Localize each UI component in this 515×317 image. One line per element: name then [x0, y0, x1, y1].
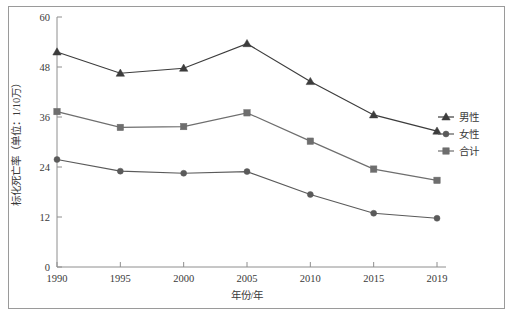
data-point	[307, 192, 313, 198]
data-point	[371, 210, 377, 216]
x-tick-label: 2010	[300, 273, 321, 284]
data-point	[434, 177, 440, 183]
x-tick-label: 1990	[47, 273, 68, 284]
axis-lines	[57, 17, 446, 267]
x-tick-label: 2019	[427, 273, 448, 284]
x-tick-label: 1995	[110, 273, 131, 284]
data-point	[243, 39, 251, 46]
data-point	[53, 48, 61, 55]
data-point	[180, 123, 186, 129]
legend-label: 女性	[459, 128, 479, 140]
data-point	[181, 170, 187, 176]
y-tick-label: 60	[40, 12, 51, 23]
data-point	[434, 215, 440, 221]
legend-marker-square-icon	[443, 148, 449, 154]
y-tick-label: 0	[45, 262, 50, 273]
series-line	[57, 44, 437, 132]
data-point	[244, 110, 250, 116]
y-tick-label: 48	[40, 62, 51, 73]
series-女性	[54, 157, 440, 222]
chart-container: 012243648601990199520002005201020152019年…	[0, 0, 515, 317]
x-tick-label: 2015	[363, 273, 384, 284]
legend: 男性女性合计	[438, 111, 480, 157]
x-axis-title: 年份/年	[231, 289, 264, 301]
legend-label: 男性	[459, 111, 479, 123]
data-point	[244, 169, 250, 175]
data-point	[307, 138, 313, 144]
legend-label: 合计	[459, 145, 480, 157]
x-tick-label: 2000	[173, 273, 194, 284]
y-axis-title: 标化死亡率（单位：1/10万）	[10, 78, 22, 207]
data-point	[306, 77, 314, 84]
y-tick-label: 36	[40, 112, 51, 123]
data-point	[54, 157, 60, 163]
data-point	[369, 111, 377, 118]
legend-marker-circle-icon	[443, 131, 449, 137]
data-point	[370, 166, 376, 172]
series-男性	[53, 39, 441, 134]
y-tick-label: 12	[40, 212, 51, 223]
x-tick-label: 2005	[237, 273, 258, 284]
y-tick-label: 24	[40, 162, 51, 173]
data-point	[54, 108, 60, 114]
line-chart: 012243648601990199520002005201020152019年…	[0, 0, 515, 317]
data-point	[117, 124, 123, 130]
series-line	[57, 160, 437, 219]
data-point	[117, 168, 123, 174]
